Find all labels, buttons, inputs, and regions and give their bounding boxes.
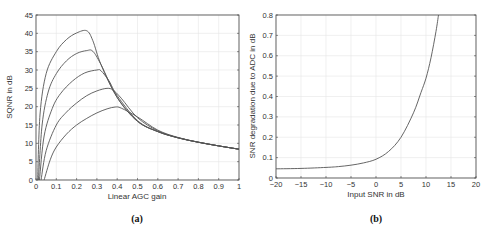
y-tick-label: 0.3 — [263, 112, 273, 121]
chart-b-ylabel: SNR degradation due to ADC in dB — [248, 34, 257, 159]
x-tick-label: 0.7 — [173, 182, 183, 191]
chart-a-ylabel: SQNR in dB — [5, 75, 14, 119]
x-tick-label: 0 — [34, 182, 38, 191]
y-tick-label: 0.2 — [263, 133, 273, 142]
chart-b: −20−15−10−50510152000.10.20.30.40.50.60.… — [248, 11, 480, 225]
x-tick-label: 15 — [447, 180, 455, 189]
chart-a-caption: (a) — [131, 213, 143, 225]
chart-a-series — [38, 30, 239, 180]
chart-b-caption: (b) — [370, 213, 382, 225]
y-tick-label: 10 — [25, 139, 33, 148]
chart-a-xlabel: Linear AGC gain — [108, 192, 167, 201]
x-tick-label: 0.5 — [132, 182, 142, 191]
chart-b-series — [276, 15, 439, 169]
y-tick-label: 0.1 — [263, 153, 273, 162]
y-tick-label: 0.5 — [263, 72, 273, 81]
y-tick-label: 0.4 — [263, 92, 273, 101]
y-tick-label: 35 — [25, 47, 33, 56]
x-tick-label: 20 — [472, 180, 480, 189]
x-tick-label: 0.4 — [112, 182, 122, 191]
y-tick-label: 40 — [25, 29, 33, 38]
figure: 00.10.20.30.40.50.60.70.80.9105101520253… — [0, 0, 496, 235]
y-tick-label: 25 — [25, 84, 33, 93]
x-tick-label: 0.1 — [51, 182, 61, 191]
chart-b-xlabel: Input SNR in dB — [347, 190, 404, 199]
y-tick-label: 0.6 — [263, 51, 273, 60]
series-line-curve-2 — [38, 50, 239, 180]
x-tick-label: 0.3 — [92, 182, 102, 191]
y-tick-label: 0.7 — [263, 31, 273, 40]
x-tick-label: 0 — [374, 180, 378, 189]
series-line-degradation — [276, 15, 439, 169]
x-tick-label: 0.8 — [193, 182, 203, 191]
chart-b-ticks: −20−15−10−50510152000.10.20.30.40.50.60.… — [263, 11, 481, 189]
chart-a-ticks: 00.10.20.30.40.50.60.70.80.9105101520253… — [25, 11, 241, 191]
y-tick-label: 15 — [25, 121, 33, 130]
x-tick-label: 1 — [237, 182, 241, 191]
y-tick-label: 20 — [25, 102, 33, 111]
chart-b-grid — [276, 15, 476, 178]
y-tick-label: 0.8 — [263, 11, 273, 20]
x-tick-label: −10 — [320, 180, 333, 189]
x-tick-label: −15 — [295, 180, 308, 189]
y-tick-label: 30 — [25, 66, 33, 75]
series-line-curve-1 — [38, 30, 239, 180]
y-tick-label: 5 — [29, 157, 33, 166]
y-tick-label: 0 — [269, 174, 273, 183]
x-tick-label: 10 — [422, 180, 430, 189]
x-tick-label: 0.9 — [213, 182, 223, 191]
y-tick-label: 0 — [29, 176, 33, 185]
x-tick-label: 0.2 — [71, 182, 81, 191]
x-tick-label: −5 — [347, 180, 356, 189]
x-tick-label: 0.6 — [153, 182, 163, 191]
x-tick-label: 5 — [399, 180, 403, 189]
y-tick-label: 45 — [25, 11, 33, 20]
series-line-curve-4 — [41, 88, 239, 180]
chart-a: 00.10.20.30.40.50.60.70.80.9105101520253… — [5, 11, 241, 225]
